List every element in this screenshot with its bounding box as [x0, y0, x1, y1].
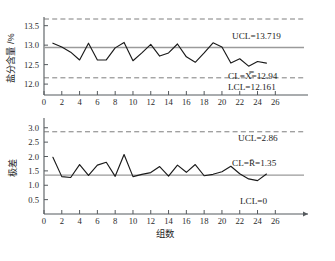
range-chart-y-axis-title: 极差 [7, 159, 18, 177]
xbar-chart-x-ticklabel: 16 [182, 97, 191, 107]
xbar-chart-x-ticklabel: 22 [235, 97, 244, 107]
range-chart-ucl-label: UCL=2.86 [238, 133, 278, 143]
xbar-chart-x-ticklabel: 24 [253, 97, 262, 107]
xbar-chart-x-ticklabel: 10 [129, 97, 138, 107]
xbar-chart-x-ticklabel: 26 [271, 97, 280, 107]
range-chart-y-ticklabel: 1.0 [28, 180, 39, 190]
range-chart-y-ticklabel: 1.5 [28, 166, 39, 176]
xbar-chart-x-ticklabel: 8 [113, 97, 117, 107]
range-chart-x-ticklabel: 6 [95, 216, 100, 226]
range-chart-x-ticklabel: 20 [218, 216, 227, 226]
xbar-chart-x-ticklabel: 2 [60, 97, 64, 107]
xbar-chart-y-axis-title: 盐分含量 /% [5, 33, 16, 82]
xbar-chart-x-ticklabel: 4 [77, 97, 82, 107]
range-chart-x-ticklabel: 2 [60, 216, 64, 226]
range-chart-x-ticklabel: 26 [271, 216, 280, 226]
xbar-chart-y-ticklabel: 12.5 [24, 60, 39, 70]
xbar-chart-y-ticklabel: 13.5 [24, 21, 39, 31]
range-chart-x-ticklabel: 4 [77, 216, 82, 226]
range-chart-x-ticklabel: 8 [113, 216, 117, 226]
xbar-chart-ucl-label: UCL=13.719 [232, 31, 281, 41]
xbar-chart-y-ticklabel: 12.0 [24, 79, 39, 89]
chart-canvas: 12.012.513.013.502468101214161820222426盐… [0, 0, 335, 261]
xbar-chart-y-ticklabel: 13.0 [24, 40, 39, 50]
range-chart-x-ticklabel: 16 [182, 216, 191, 226]
range-chart-y-ticklabel: 3.0 [28, 123, 39, 133]
xbar-chart-lcl-label: LCL=12.161 [228, 82, 276, 92]
range-chart-lcl-label: LCL=0 [240, 196, 268, 206]
xbar-chart-x-ticklabel: 12 [146, 97, 155, 107]
xbar-chart-cl-label: CL=X̿=12.94 [228, 71, 278, 81]
range-chart-x-axis-title: 组数 [156, 228, 175, 239]
range-chart-x-axis-arrow [303, 212, 308, 217]
range-chart-cl-label: CL=R̄=1.35 [232, 158, 277, 168]
range-chart-x-ticklabel: 12 [146, 216, 155, 226]
range-chart-y-ticklabel: 0.5 [28, 195, 39, 205]
range-chart-x-ticklabel: 22 [235, 216, 244, 226]
range-chart-x-ticklabel: 10 [129, 216, 138, 226]
range-chart-y-ticklabel: 2.5 [28, 137, 39, 147]
xbar-chart-x-ticklabel: 20 [218, 97, 227, 107]
xbar-chart-x-ticklabel: 6 [95, 97, 100, 107]
xbar-chart-x-ticklabel: 0 [42, 97, 46, 107]
xbar-chart-x-ticklabel: 14 [164, 97, 173, 107]
range-chart-x-ticklabel: 14 [164, 216, 173, 226]
xbar-chart-data-line [53, 42, 267, 66]
range-chart-x-ticklabel: 24 [253, 216, 262, 226]
range-chart-x-ticklabel: 0 [42, 216, 46, 226]
xbar-chart-x-ticklabel: 18 [200, 97, 209, 107]
range-chart-x-ticklabel: 18 [200, 216, 209, 226]
range-chart-y-ticklabel: 2.0 [28, 152, 39, 162]
control-chart-figure: 12.012.513.013.502468101214161820222426盐… [0, 0, 335, 261]
